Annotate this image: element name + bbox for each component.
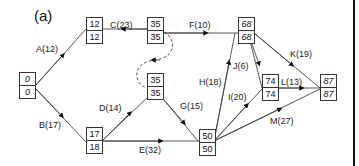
node-12: 12 12 bbox=[86, 17, 103, 44]
activity-g: G(15) bbox=[180, 102, 203, 111]
early-time: 12 bbox=[87, 18, 102, 31]
early-time: 0 bbox=[20, 73, 35, 86]
early-time: 50 bbox=[200, 130, 215, 143]
late-time: 68 bbox=[239, 31, 254, 43]
activity-m: M(27) bbox=[270, 117, 294, 126]
late-time: 35 bbox=[148, 31, 163, 43]
page-edge-line bbox=[353, 0, 355, 166]
node-87: 87 87 bbox=[320, 74, 337, 101]
early-time: 35 bbox=[148, 74, 163, 87]
activity-c: C(23) bbox=[110, 21, 133, 30]
early-time: 68 bbox=[239, 18, 254, 31]
node-0: 0 0 bbox=[19, 72, 36, 99]
activity-b: B(17) bbox=[39, 121, 61, 130]
activity-d: D(14) bbox=[99, 104, 122, 113]
node-35-bottom: 35 35 bbox=[147, 73, 164, 100]
activity-k: K(19) bbox=[290, 50, 312, 59]
late-time: 0 bbox=[20, 86, 35, 98]
activity-e: E(32) bbox=[139, 146, 161, 155]
early-time: 17 bbox=[87, 128, 102, 141]
node-68: 68 68 bbox=[238, 17, 255, 44]
activity-l: L(13) bbox=[281, 78, 302, 87]
early-time: 87 bbox=[321, 75, 336, 88]
figure-label: (a) bbox=[34, 7, 52, 24]
late-time: 74 bbox=[263, 88, 278, 100]
node-50: 50 50 bbox=[199, 129, 216, 156]
activity-i: I(20) bbox=[228, 93, 247, 102]
early-time: 35 bbox=[148, 18, 163, 31]
early-time: 74 bbox=[263, 75, 278, 88]
activity-a: A(12) bbox=[36, 45, 58, 54]
activity-j: J(6) bbox=[233, 62, 249, 71]
late-time: 12 bbox=[87, 31, 102, 43]
late-time: 50 bbox=[200, 143, 215, 155]
activity-h: H(18) bbox=[199, 78, 222, 87]
node-17: 17 18 bbox=[86, 127, 103, 154]
node-74: 74 74 bbox=[262, 74, 279, 101]
network-edges bbox=[0, 0, 359, 166]
late-time: 35 bbox=[148, 87, 163, 99]
activity-f: F(10) bbox=[189, 21, 211, 30]
node-35-top: 35 35 bbox=[147, 17, 164, 44]
late-time: 18 bbox=[87, 141, 102, 153]
late-time: 87 bbox=[321, 88, 336, 100]
